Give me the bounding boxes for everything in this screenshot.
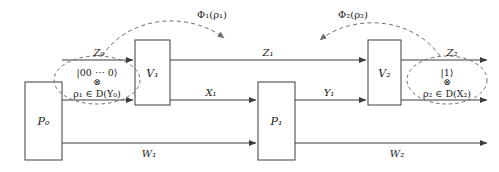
circuit-canvas <box>0 0 499 172</box>
wire-label-w2: W₂ <box>390 148 404 159</box>
ket-label-output: |1⟩ <box>441 67 454 78</box>
wire-label-z1: Z₁ <box>263 47 274 58</box>
channel-map-label-phi2: Φ₂(ρ₂) <box>338 9 368 20</box>
state-label-output: ρ₂ ∈ D(X₂) <box>423 88 471 99</box>
tensor-symbol-input: ⊗ <box>93 77 101 87</box>
box-label-v2: V₂ <box>378 66 390 79</box>
box-label-v1: V₁ <box>146 66 158 79</box>
wire-label-y1: Y₁ <box>324 87 335 98</box>
box-label-p1: P₁ <box>271 115 283 128</box>
box-label-p0: P₀ <box>38 115 50 128</box>
wire-label-z2: Z₂ <box>447 47 458 58</box>
channel-map-label-phi1: Φ₁(ρ₁) <box>197 9 227 20</box>
ket-label-input: |00 ⋯ 0⟩ <box>76 67 117 78</box>
state-label-input: ρ₁ ∈ D(Y₀) <box>73 88 121 99</box>
wire-label-w1: W₁ <box>142 148 156 159</box>
wire-label-z0: Z₀ <box>94 47 105 58</box>
wire-label-x1: X₁ <box>205 87 216 98</box>
quantum-circuit-diagram: P₀ V₁ P₁ V₂ Z₀ Z₁ X₁ Y₁ Z₂ W₁ W₂ |00 ⋯ 0… <box>0 0 499 172</box>
tensor-symbol-output: ⊗ <box>443 77 451 87</box>
